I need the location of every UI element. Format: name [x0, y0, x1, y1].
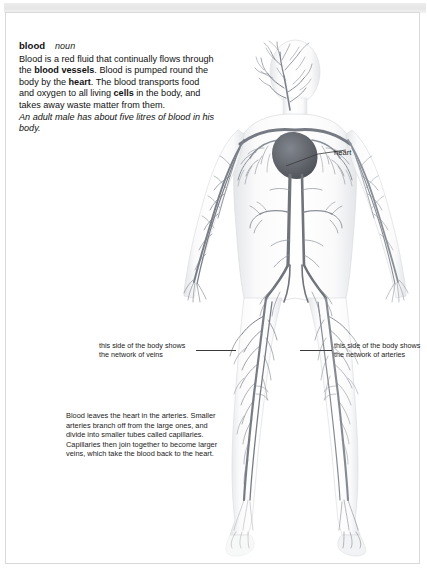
body-silhouette [184, 40, 406, 556]
definition-bold-term: cells [114, 88, 134, 98]
arteries-callout-line2: the network of arteries [334, 350, 426, 359]
heart-callout-label: heart [334, 148, 374, 157]
definition-bold-term: heart [69, 77, 91, 87]
veins-callout-line2: the network of veins [99, 350, 207, 359]
veins-leader-line [196, 350, 236, 351]
arteries-callout-label: this side of the body shows the network … [334, 341, 426, 360]
scan-top-band [4, 3, 426, 13]
definition-bold-term: blood vessels [34, 65, 94, 75]
veins-callout-line1: this side of the body shows [99, 341, 207, 350]
circulatory-system-figure [178, 30, 423, 565]
part-of-speech: noun [55, 41, 75, 51]
heart-leader-line [280, 140, 350, 180]
headword: blood [19, 40, 45, 51]
page-canvas: bloodnoun Blood is a red fluid that cont… [0, 0, 427, 574]
arteries-callout-line1: this side of the body shows [334, 341, 426, 350]
veins-callout-label: this side of the body shows the network … [99, 341, 207, 360]
capillaries-note: Blood leaves the heart in the arteries. … [66, 411, 218, 459]
arteries-leader-line [300, 350, 332, 351]
